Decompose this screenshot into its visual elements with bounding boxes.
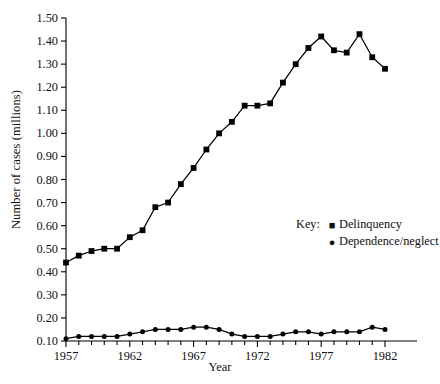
circle-marker-icon: ● [326, 236, 338, 248]
y-axis-ticks [61, 18, 66, 341]
axis-lines [66, 18, 417, 341]
legend-row-delinquency: Key: ■ Delinquency [296, 216, 439, 233]
plot-area [0, 0, 440, 384]
legend-key-label: Key: [296, 217, 326, 232]
x-axis-ticks [66, 341, 385, 347]
legend-label-delinquency: Delinquency [338, 217, 402, 232]
chart-legend: Key: ■ Delinquency ● Dependence/neglect [296, 216, 439, 250]
series-dependence-neglect [64, 325, 388, 342]
legend-row-dependence-neglect: ● Dependence/neglect [296, 233, 439, 250]
square-marker-icon: ■ [326, 219, 338, 231]
legend-label-dependence-neglect: Dependence/neglect [338, 234, 439, 249]
chart-figure: Number of cases (millions) Year 1.501.40… [0, 0, 440, 384]
